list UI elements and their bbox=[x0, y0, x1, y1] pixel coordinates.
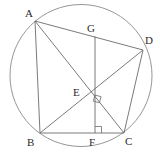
vertex-label-G: G bbox=[87, 23, 95, 34]
segment-AC bbox=[35, 21, 124, 133]
vertex-label-D: D bbox=[145, 35, 153, 46]
diagram-canvas bbox=[0, 0, 160, 155]
segment-AB bbox=[35, 21, 40, 133]
vertex-label-C: C bbox=[125, 136, 132, 147]
circumcircle bbox=[10, 5, 152, 147]
vertex-label-A: A bbox=[25, 8, 33, 19]
segment-BD bbox=[40, 50, 143, 133]
vertex-label-F: F bbox=[89, 137, 95, 148]
geometry-diagram: A G D E B F C bbox=[0, 0, 160, 155]
vertex-label-E: E bbox=[73, 87, 80, 98]
vertex-label-B: B bbox=[27, 137, 34, 148]
right-angle-at-F bbox=[95, 127, 102, 134]
